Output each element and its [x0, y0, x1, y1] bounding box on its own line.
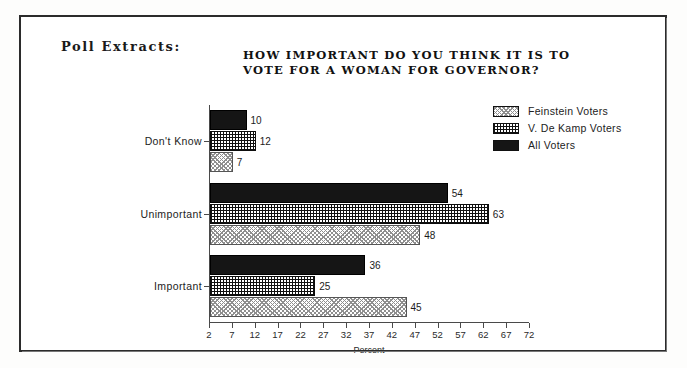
chart-title-line-2: VOTE FOR A WOMAN FOR GOVERNOR? [243, 63, 663, 78]
x-tick [438, 323, 439, 328]
bar-all-voters: 36 [210, 255, 365, 275]
bar-feinstein-voters: 45 [210, 297, 407, 317]
x-tick [415, 323, 416, 328]
x-tick [209, 323, 210, 328]
x-tick [232, 323, 233, 328]
bar-v-de-kamp-voters: 12 [210, 131, 256, 151]
poll-extract-page: Poll Extracts: HOW IMPORTANT DO YOU THIN… [0, 0, 687, 368]
bar-value-label: 54 [452, 187, 463, 198]
bar-all-voters: 10 [210, 110, 247, 130]
bar-v-de-kamp-voters: 25 [210, 276, 315, 296]
x-tick-label: 12 [249, 329, 260, 340]
document-frame: Poll Extracts: HOW IMPORTANT DO YOU THIN… [19, 15, 667, 352]
x-tick [255, 323, 256, 328]
x-tick-label: 2 [206, 329, 211, 340]
x-tick-label: 7 [229, 329, 234, 340]
x-tick-label: 57 [455, 329, 466, 340]
poll-extracts-header: Poll Extracts: [61, 39, 181, 54]
legend-label-feinstein: Feinstein Voters [528, 105, 608, 117]
y-tick [204, 286, 209, 287]
bar-all-voters: 54 [210, 183, 448, 203]
x-tick-label: 27 [318, 329, 329, 340]
x-tick [323, 323, 324, 328]
x-axis-label: Percent [353, 345, 384, 355]
bar-value-label: 48 [424, 229, 435, 240]
x-tick-label: 47 [409, 329, 420, 340]
bar-value-label: 45 [411, 301, 422, 312]
legend-label-van-de-kamp: V. De Kamp Voters [528, 122, 621, 134]
x-tick [346, 323, 347, 328]
x-tick-label: 42 [387, 329, 398, 340]
bar-feinstein-voters: 7 [210, 152, 233, 172]
bar-chart-plot-area: 2712172227323742475257626772 ImportantUn… [209, 105, 529, 322]
x-tick-label: 32 [341, 329, 352, 340]
x-tick [278, 323, 279, 328]
chart-title: HOW IMPORTANT DO YOU THINK IT IS TO VOTE… [243, 48, 663, 78]
bar-value-label: 63 [493, 208, 504, 219]
x-tick [460, 323, 461, 328]
x-tick-label: 67 [501, 329, 512, 340]
x-tick [483, 323, 484, 328]
y-tick [204, 141, 209, 142]
x-tick [529, 323, 530, 328]
x-tick [369, 323, 370, 328]
x-tick [300, 323, 301, 328]
x-tick-label: 62 [478, 329, 489, 340]
bar-value-label: 12 [260, 136, 271, 147]
bar-v-de-kamp-voters: 63 [210, 204, 489, 224]
bar-value-label: 25 [319, 280, 330, 291]
x-tick-label: 22 [295, 329, 306, 340]
x-tick-label: 72 [524, 329, 535, 340]
x-tick-label: 37 [364, 329, 375, 340]
y-axis-category-label: Important [154, 280, 202, 292]
y-axis-category-label: Unimportant [140, 208, 202, 220]
bar-value-label: 36 [369, 259, 380, 270]
y-axis-category-label: Don't Know [145, 135, 202, 147]
bar-value-label: 10 [251, 115, 262, 126]
x-tick [506, 323, 507, 328]
bar-feinstein-voters: 48 [210, 225, 420, 245]
legend-label-all-voters: All Voters [528, 139, 575, 151]
chart-title-line-1: HOW IMPORTANT DO YOU THINK IT IS TO [243, 48, 663, 63]
x-tick [392, 323, 393, 328]
x-tick-label: 52 [432, 329, 443, 340]
bar-value-label: 7 [237, 157, 243, 168]
y-tick [204, 214, 209, 215]
x-tick-label: 17 [272, 329, 283, 340]
